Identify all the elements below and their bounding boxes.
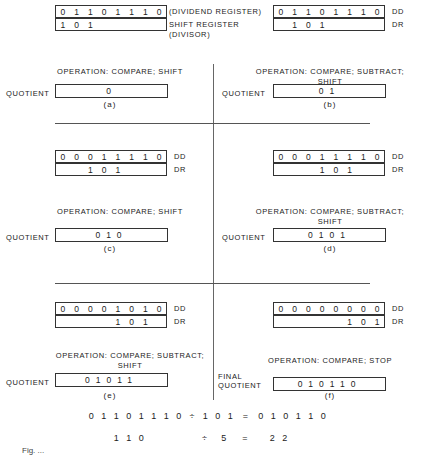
dr-label: DR (174, 317, 186, 326)
bit-cell (97, 317, 111, 327)
quotient-label: QUOTIENT (222, 89, 266, 98)
bit-cell: 1 (111, 152, 125, 162)
divisor-register: 101 (273, 163, 385, 176)
bit-cell: 0 (56, 7, 70, 17)
operation-text: OPERATION: COMPARE; SUBTRACT;SHIFT (40, 351, 220, 371)
dividend-register: 00001010 (55, 302, 167, 315)
equation-token: 1 (123, 433, 136, 443)
bit-cell (302, 317, 316, 327)
quotient-register: 010 (55, 228, 168, 242)
bit-cell: 1 (343, 152, 357, 162)
equation-token (254, 433, 266, 443)
equation-token: 2 (266, 433, 279, 443)
equation-token (85, 433, 110, 443)
equation-token: 1 (267, 411, 280, 421)
bit-cell: 0 (70, 152, 84, 162)
equation-token: 1 (292, 411, 305, 421)
bit-cell: 0 (302, 304, 316, 314)
bit-cell: 0 (152, 304, 166, 314)
bit-cell: 1 (125, 7, 139, 17)
quotient-label: QUOTIENT (6, 233, 50, 242)
bit-cell: 0 (84, 304, 98, 314)
dd-bits: 01101110 (56, 7, 166, 17)
bit-cell (274, 317, 288, 327)
bit-cell: 1 (370, 317, 384, 327)
equation-token: 1 (110, 433, 123, 443)
dd-bits: 00011110 (56, 152, 166, 162)
final-label: FINAL (218, 372, 242, 381)
quotient-register: 01011 (55, 373, 168, 387)
bit-cell (125, 20, 139, 30)
equation-token: 0 (123, 411, 136, 421)
divisor-register: 101 (55, 18, 167, 31)
vertical-divider (213, 64, 214, 400)
bit-cell: 0 (97, 7, 111, 17)
final-quotient-register: 010110 (273, 377, 386, 391)
binary-equation: 01101110÷101=010110 (85, 411, 330, 421)
bit-cell: 1 (315, 20, 329, 30)
figure-caption: Fig. ... (22, 446, 44, 455)
dd-label: DD (392, 152, 404, 161)
bit-cell: 1 (56, 20, 70, 30)
bit-cell: 0 (152, 7, 166, 17)
bit-cell (70, 165, 84, 175)
equation-token: 0 (280, 411, 293, 421)
operation-line1: OPERATION: COMPARE; SUBTRACT; (40, 351, 220, 361)
dd-bits: 01101110 (274, 7, 384, 17)
dr-label: DR (392, 20, 404, 29)
bit-cell (152, 317, 166, 327)
bit-cell (302, 165, 316, 175)
equation-token: 0 (212, 411, 225, 421)
bit-cell (97, 20, 111, 30)
bit-cell: 1 (139, 7, 153, 17)
bit-cell (370, 20, 384, 30)
bit-cell (125, 165, 139, 175)
bit-cell (357, 165, 371, 175)
bit-cell (70, 317, 84, 327)
panel-caption: (a) (90, 100, 130, 109)
quotient-label: QUOTIENT (6, 89, 50, 98)
bit-cell: 0 (97, 304, 111, 314)
equation-token: 0 (135, 433, 148, 443)
bit-cell (288, 165, 302, 175)
bit-cell: 1 (302, 7, 316, 17)
bit-cell: 0 (274, 152, 288, 162)
dr-label: DR (174, 165, 186, 174)
equation-token: 1 (98, 411, 111, 421)
operation-line1: OPERATION: COMPARE; SUBTRACT; (240, 67, 420, 77)
dd-bits: 00011110 (274, 152, 384, 162)
bit-cell: 0 (343, 304, 357, 314)
equation-token: 0 (173, 411, 186, 421)
operation-line2: SHIFT (240, 217, 420, 227)
bit-cell: 0 (357, 304, 371, 314)
bit-cell: 0 (97, 165, 111, 175)
dd-bits: 00000000 (274, 304, 384, 314)
bit-cell (139, 20, 153, 30)
bit-cell: 1 (343, 7, 357, 17)
bit-cell: 0 (288, 304, 302, 314)
shift-register-label: SHIFT REGISTER (169, 20, 239, 29)
bit-cell: 1 (288, 7, 302, 17)
bit-cell: 0 (315, 7, 329, 17)
bit-cell: 1 (125, 152, 139, 162)
bit-cell: 0 (56, 152, 70, 162)
dr-bits: 101 (274, 165, 384, 175)
dd-label: DD (174, 152, 186, 161)
equation-token: 0 (85, 411, 98, 421)
bit-cell: 1 (84, 7, 98, 17)
horizontal-divider-1 (55, 123, 370, 124)
operation-text: OPERATION: COMPARE; SHIFT (45, 67, 195, 77)
bit-cell: 0 (329, 304, 343, 314)
bit-cell (343, 20, 357, 30)
bit-cell: 1 (111, 317, 125, 327)
bit-cell: 0 (70, 304, 84, 314)
dividend-register: 01101110 (273, 5, 385, 18)
bit-cell: 0 (56, 304, 70, 314)
dd-label: DD (392, 7, 404, 16)
bit-cell: 1 (343, 165, 357, 175)
bit-cell (111, 20, 125, 30)
dr-label: DR (392, 165, 404, 174)
divisor-register: 101 (55, 163, 167, 176)
equation-token: = (236, 433, 254, 443)
panel-caption: (d) (310, 244, 350, 253)
